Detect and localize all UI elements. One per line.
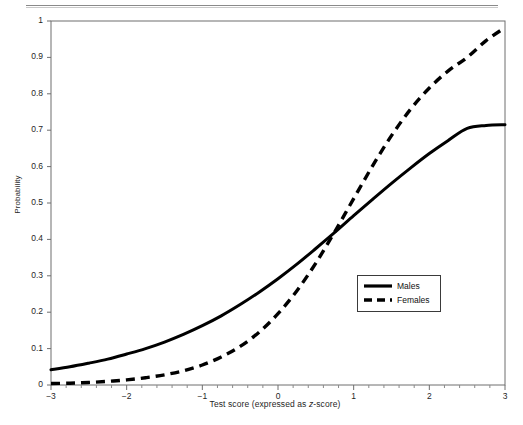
y-tick-label: 0.2 [13,306,43,316]
legend-label-males: Males [397,281,420,291]
x-axis-title-suffix: -score) [313,399,340,409]
x-axis-title-prefix: Test score (expressed as [210,399,309,409]
chart-legend: Males Females [357,275,441,312]
figure-container: 00.10.20.30.40.50.60.70.80.91 −3−2−10123… [0,0,523,425]
y-tick-label: 0.3 [13,270,43,280]
legend-swatch-solid [363,281,393,291]
y-tick-label: 1 [13,15,43,25]
legend-entry-females: Females [363,293,430,307]
x-axis-ticks [51,385,505,390]
series-line-males [51,125,505,370]
y-tick-label: 0.9 [13,51,43,61]
y-tick-label: 0 [13,379,43,389]
y-tick-label: 0.7 [13,124,43,134]
y-tick-label: 0.1 [13,343,43,353]
y-axis-ticks [47,21,51,385]
x-axis-title: Test score (expressed as z-score) [130,399,420,409]
chart-canvas [0,0,523,425]
legend-swatch-dashed [363,295,393,305]
series-line-females [51,28,505,384]
x-tick-label: −3 [36,391,66,401]
x-tick-label: 3 [490,391,520,401]
plot-frame [51,21,505,385]
legend-label-females: Females [397,295,430,305]
y-axis-title: Probability [13,150,22,240]
y-tick-label: 0.8 [13,88,43,98]
legend-entry-males: Males [363,279,420,293]
